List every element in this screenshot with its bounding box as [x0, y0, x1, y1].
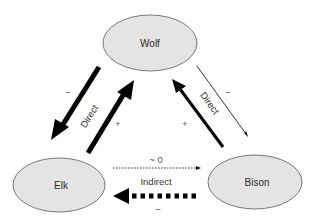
label-indirect: Indirect — [140, 176, 172, 187]
node-label-elk: Elk — [54, 180, 69, 191]
node-label-wolf: Wolf — [140, 38, 160, 49]
label-right-direct: Direct — [198, 90, 222, 117]
sign-elk-bison: ~ 0 — [149, 154, 162, 165]
sign-elk-wolf: + — [115, 119, 120, 129]
label-left-direct: Direct — [78, 102, 101, 129]
sign-bison-wolf: + — [182, 119, 187, 129]
arrow-bison-to-elk — [113, 188, 196, 204]
arrow-elk-to-bison — [113, 166, 201, 170]
node-elk: Elk — [13, 158, 105, 212]
interaction-diagram: Wolf Elk Bison – Direct + – Direct — [0, 0, 316, 220]
sign-wolf-elk: – — [65, 87, 70, 97]
sign-bison-elk: – — [155, 204, 160, 214]
node-bison: Bison — [208, 155, 302, 209]
sign-wolf-bison: – — [225, 87, 230, 97]
node-wolf: Wolf — [103, 15, 197, 71]
node-label-bison: Bison — [244, 177, 269, 188]
